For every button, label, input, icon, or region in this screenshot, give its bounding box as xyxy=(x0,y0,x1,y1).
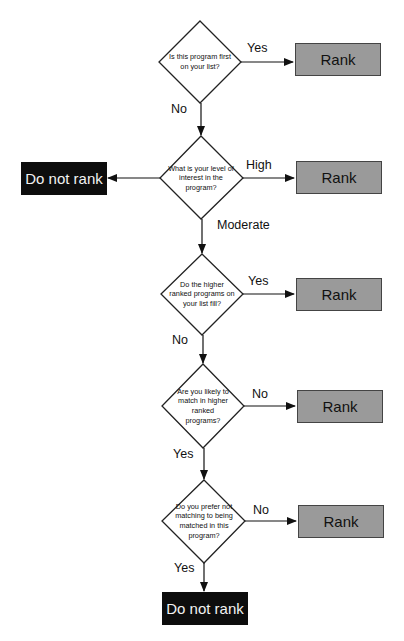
decision-5: Do you prefer not matching to being matc… xyxy=(162,479,246,563)
do-not-rank-box-2: Do not rank xyxy=(162,592,248,625)
edge-label-q4-yes: Yes xyxy=(173,447,193,461)
decision-3-text: Do the higher ranked programs on your li… xyxy=(169,280,235,309)
edge-label-q3-yes: Yes xyxy=(248,274,268,288)
decision-2-text: What is your level of interest in the pr… xyxy=(168,164,234,193)
edge-label-q5-yes: Yes xyxy=(174,561,194,575)
rank-box-2: Rank xyxy=(296,161,382,194)
rank-box-1: Rank xyxy=(295,43,381,76)
edge-label-q2-high: High xyxy=(246,158,272,172)
decision-4: Are you likely to match in higher ranked… xyxy=(161,364,245,448)
edge-label-q1-no: No xyxy=(171,102,187,116)
edge-label-q2-moderate: Moderate xyxy=(217,218,270,232)
decision-1: Is this program first on your list? xyxy=(158,20,242,104)
edge-label-q4-no: No xyxy=(252,387,268,401)
do-not-rank-box-1: Do not rank xyxy=(21,162,107,195)
decision-2: What is your level of interest in the pr… xyxy=(159,136,243,220)
decision-3: Do the higher ranked programs on your li… xyxy=(160,252,244,336)
rank-box-5: Rank xyxy=(298,505,384,538)
decision-4-text: Are you likely to match in higher ranked… xyxy=(174,387,232,425)
rank-box-3: Rank xyxy=(296,278,382,311)
decision-1-text: Is this program first on your list? xyxy=(167,52,233,71)
edge-label-q5-no: No xyxy=(253,503,269,517)
edge-label-q1-yes: Yes xyxy=(247,41,267,55)
edge-label-q3-no: No xyxy=(172,333,188,347)
flowchart: Is this program first on your list? What… xyxy=(0,0,404,641)
rank-box-4: Rank xyxy=(297,390,383,423)
decision-5-text: Do you prefer not matching to being matc… xyxy=(174,502,234,540)
